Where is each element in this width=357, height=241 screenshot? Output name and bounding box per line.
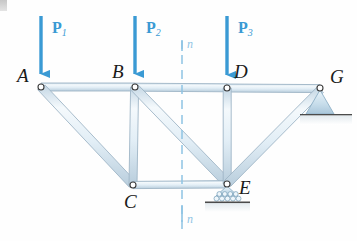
truss-members: [38, 83, 324, 189]
member-EG: [224, 87, 323, 186]
member-CE: [133, 181, 227, 189]
load-label-P3: P3: [238, 20, 253, 36]
truss-drawing-canvas: [0, 0, 357, 241]
load-arrows: [41, 16, 227, 75]
joint-label-D: D: [234, 62, 248, 81]
load-label-P2: P2: [146, 20, 161, 36]
member-DG: [227, 84, 320, 93]
member-DE: [223, 88, 231, 184]
truss-figure: A B D G C E P1 P2 P3 n n: [0, 0, 357, 241]
joint-pin-B: [132, 84, 138, 90]
joint-label-B: B: [112, 62, 124, 81]
member-BC: [129, 87, 139, 185]
member-BD: [135, 83, 227, 92]
joint-label-A: A: [17, 66, 29, 85]
joint-pin-C: [130, 182, 136, 188]
load-label-P1: P1: [52, 20, 67, 36]
section-label-n-bottom: n: [187, 213, 193, 225]
section-label-n-top: n: [187, 38, 193, 50]
joint-label-E: E: [239, 178, 251, 197]
joint-pin-E: [224, 181, 230, 187]
joint-pin-G: [317, 85, 323, 91]
member-AC: [38, 85, 137, 187]
member-AB: [41, 83, 135, 91]
load-label-P1-base: P: [52, 19, 62, 36]
load-label-P3-base: P: [238, 19, 248, 36]
load-label-P2-sub: 2: [156, 27, 161, 38]
load-label-P1-sub: 1: [62, 27, 67, 38]
joint-pin-A: [38, 84, 44, 90]
load-label-P3-sub: 3: [248, 27, 253, 38]
joint-label-G: G: [330, 67, 344, 86]
load-label-P2-base: P: [146, 19, 156, 36]
member-BE: [131, 85, 230, 186]
joint-label-C: C: [124, 192, 137, 211]
joint-pin-D: [224, 85, 230, 91]
